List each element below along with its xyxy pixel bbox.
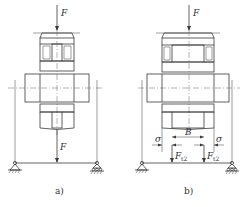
sigma-dim-left: σ <box>152 134 182 147</box>
panel-b: F B <box>135 5 240 196</box>
sigma-label-left: σ <box>155 134 162 144</box>
dimension-b: B <box>172 127 204 139</box>
svg-text:t2: t2 <box>213 155 219 162</box>
sigma-label-right: σ <box>216 134 223 144</box>
force-label-bottom-a: F <box>59 142 67 152</box>
force-label-top-b: F <box>192 8 200 18</box>
width-label-b: B <box>184 127 192 137</box>
svg-text:t2: t2 <box>181 155 187 162</box>
panel-a: F F <box>8 5 104 196</box>
diagram-canvas: F F <box>0 0 244 207</box>
caption-b: b) <box>184 186 193 196</box>
sigma-dim-right: σ <box>194 134 224 147</box>
caption-a: a) <box>55 186 64 196</box>
force-ft2-right: F t2 <box>202 145 219 163</box>
force-ft2-left: F t2 <box>170 145 187 163</box>
force-label-top-a: F <box>60 8 68 18</box>
